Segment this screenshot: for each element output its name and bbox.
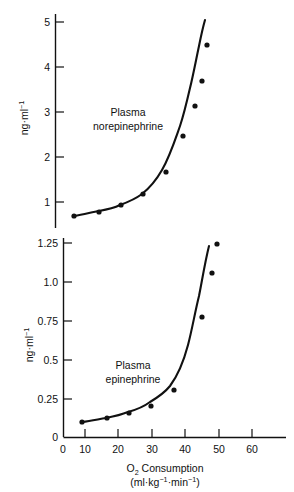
data-point	[204, 42, 209, 47]
data-point	[126, 410, 131, 415]
top-y-tick-label-5: 5	[44, 16, 50, 28]
bottom-y-tick-label-0p5: 0.5	[43, 354, 58, 366]
top-y-tick-label-2: 2	[44, 151, 50, 163]
top-y-axis-title: ng·ml−1	[17, 101, 30, 135]
x-axis-title-consumption: Consumption	[142, 462, 204, 474]
data-point	[96, 209, 101, 214]
data-point	[171, 387, 176, 392]
bottom-y-axis-title-base: ng·ml	[23, 336, 35, 362]
x-axis-title-units-c: )	[196, 476, 200, 488]
bottom-data-points	[79, 241, 219, 424]
panel-epinephrine: 1.25 1.0 0.75 0.5 0.25 0 ng·ml−1 0 10 20…	[22, 237, 286, 488]
data-point	[180, 133, 185, 138]
x-axis-title-units-a: (ml·kg	[130, 476, 159, 488]
data-point	[118, 202, 123, 207]
bottom-curve	[82, 246, 209, 422]
data-point	[199, 314, 204, 319]
bottom-y-tick-label-0: 0	[52, 431, 58, 443]
top-y-tick-label-4: 4	[44, 61, 50, 73]
figure-container: 5 4 3 2 1 ng·ml−1 Plasma nore	[0, 0, 294, 492]
svg-text:ng·ml−1: ng·ml−1	[17, 101, 30, 135]
bottom-annotation-line2: epinephrine	[106, 373, 161, 385]
top-annotation-line2: norepinephrine	[93, 120, 163, 132]
data-point	[79, 419, 84, 424]
top-annotation-line1: Plasma	[110, 106, 145, 118]
bottom-annotation-line1: Plasma	[115, 359, 150, 371]
bottom-y-ticks: 1.25 1.0 0.75 0.5 0.25 0	[38, 237, 72, 443]
x-axis-title-units-b: ·min	[168, 476, 189, 488]
x-tick-label-40: 40	[179, 443, 191, 455]
data-point	[214, 241, 219, 246]
x-tick-label-30: 30	[146, 443, 158, 455]
top-y-ticks: 5 4 3 2 1	[44, 16, 64, 208]
top-y-tick-label-1: 1	[44, 196, 50, 208]
data-point	[192, 103, 197, 108]
data-point	[163, 169, 168, 174]
data-point	[104, 415, 109, 420]
x-axis-title-line2: (ml·kg−1·min−1)	[130, 475, 200, 488]
x-tick-label-60: 60	[246, 443, 258, 455]
bottom-y-tick-label-0p75: 0.75	[38, 315, 59, 327]
bottom-y-axis-title: ng·ml−1	[22, 328, 35, 362]
x-tick-label-20: 20	[112, 443, 124, 455]
top-curve	[74, 20, 205, 216]
x-tick-label-10: 10	[79, 443, 91, 455]
x-axis-title-units-sup1: −1	[159, 475, 167, 484]
data-point	[148, 403, 153, 408]
x-tick-label-50: 50	[213, 443, 225, 455]
data-point	[140, 191, 145, 196]
top-y-tick-label-3: 3	[44, 106, 50, 118]
dual-panel-chart: 5 4 3 2 1 ng·ml−1 Plasma nore	[0, 0, 294, 492]
panel-norepinephrine: 5 4 3 2 1 ng·ml−1 Plasma nore	[17, 14, 210, 228]
x-axis-title-o: O	[127, 462, 135, 474]
bottom-y-tick-label-0p25: 0.25	[38, 393, 59, 405]
bottom-x-ticks: 0 10 20 30 40 50 60	[60, 429, 258, 455]
data-point	[199, 78, 204, 83]
x-axis-title-units-sup2: −1	[188, 475, 196, 484]
top-y-axis-title-base: ng·ml	[18, 109, 30, 135]
top-y-axis-title-exp: −1	[17, 101, 26, 109]
data-point	[209, 270, 214, 275]
data-point	[71, 213, 76, 218]
bottom-y-axis-title-exp: −1	[22, 328, 31, 336]
x-tick-label-0: 0	[60, 443, 66, 455]
svg-text:ng·ml−1: ng·ml−1	[22, 328, 35, 362]
bottom-y-tick-label-1p0: 1.0	[43, 276, 58, 288]
bottom-y-tick-label-1p25: 1.25	[38, 237, 59, 249]
